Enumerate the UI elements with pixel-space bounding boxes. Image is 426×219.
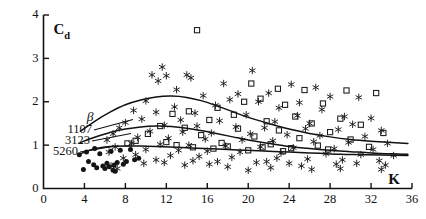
data-point-asterisk [385,140,391,147]
data-point-square [194,28,199,33]
x-tick-label: 28 [324,192,337,206]
data-point-circle [94,165,99,170]
data-point-asterisk [217,118,223,125]
data-point-asterisk [309,166,315,173]
data-point-circle [136,156,141,161]
chart-figure: 0481216202428323601234 β110731235260 CdK [0,0,426,219]
data-point-asterisk [192,110,198,117]
data-point-asterisk [153,157,159,164]
data-point-asterisk [299,163,305,170]
data-point-circle [81,167,86,172]
data-point-asterisk [233,124,239,131]
x-tick-label: 4 [81,192,88,206]
data-point-asterisk [141,160,147,167]
data-point-asterisk [225,164,231,171]
data-point-asterisk [206,161,212,168]
data-point-square [249,81,254,86]
legend-label-5260: 5260 [53,144,78,158]
data-point-square [344,88,349,93]
data-point-asterisk [335,126,341,133]
x-tick-label: 16 [201,192,214,206]
y-axis-title: Cd [54,21,71,41]
data-point-asterisk [174,86,180,93]
data-point-asterisk [163,72,169,79]
data-point-square [374,90,379,95]
data-point-square [276,128,281,133]
data-point-asterisk [305,156,311,163]
data-point-asterisk [319,106,325,113]
data-point-asterisk [166,135,172,142]
data-point-asterisk [215,158,221,165]
data-point-square [358,122,363,127]
data-point-square [282,102,287,107]
data-point-square [320,101,325,106]
y-tick-label: 3 [32,51,38,65]
data-point-circle [97,151,102,156]
data-point-square [186,109,191,114]
x-tick-label: 24 [283,192,296,206]
y-tick-label: 4 [32,7,39,21]
data-point-square [242,99,247,104]
data-point-asterisk [178,117,184,124]
data-point-asterisk [182,162,188,169]
data-point-square [338,116,343,121]
data-point-circle [115,160,120,165]
data-point-asterisk [168,152,174,159]
y-tick-label: 2 [32,94,38,108]
data-point-asterisk [297,99,303,106]
data-point-asterisk [172,104,178,111]
data-point-asterisk [194,123,200,130]
data-point-asterisk [333,161,339,168]
data-point-asterisk [327,93,333,100]
data-point-square [170,111,175,116]
data-point-circle [128,147,133,152]
data-point-asterisk [254,159,260,166]
data-point-asterisk [161,159,167,166]
data-point-asterisk [284,131,290,138]
data-point-asterisk [180,129,186,136]
axes-group: 0481216202428323601234 [32,7,418,206]
data-point-square [297,136,302,141]
data-point-square [315,143,320,148]
series-circles [77,146,141,174]
series-squares [125,28,386,154]
data-point-asterisk [262,124,268,131]
data-point-asterisk [313,84,319,91]
data-point-asterisk [139,116,145,123]
data-point-asterisk [383,162,389,169]
data-point-asterisk [350,121,356,128]
data-point-asterisk [200,92,206,99]
data-point-asterisk [235,91,241,98]
data-point-square [207,117,212,122]
data-point-asterisk [288,81,294,88]
y-axis-title-main: C [54,21,65,37]
data-point-square [328,130,333,135]
data-point-asterisk [245,167,251,174]
x-tick-label: 36 [406,192,419,206]
data-point-asterisk [131,107,137,114]
x-tick-label: 20 [242,192,255,206]
data-point-circle [109,149,114,154]
data-point-asterisk [278,150,284,157]
data-point-circle [113,169,118,174]
data-point-asterisk [190,157,196,164]
y-tick-label: 0 [32,181,38,195]
data-point-asterisk [368,115,374,122]
data-point-asterisk [153,109,159,116]
data-point-asterisk [159,64,165,71]
data-point-square [275,86,280,91]
x-tick-label: 0 [40,192,46,206]
data-point-asterisk [268,164,274,171]
data-point-asterisk [362,133,368,140]
data-point-square [199,133,204,138]
data-point-asterisk [264,158,270,165]
curves-group [80,96,408,155]
data-point-asterisk [303,125,309,132]
data-point-asterisk [227,96,233,103]
data-point-asterisk [340,157,346,164]
data-point-asterisk [356,94,362,101]
data-point-asterisk [229,154,235,161]
data-point-circle [86,159,91,164]
data-point-asterisk [221,80,227,87]
data-point-asterisk [266,90,272,97]
